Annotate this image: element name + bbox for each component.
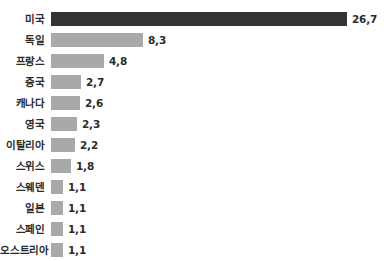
bar-row: 독일8,3 xyxy=(0,29,389,50)
bar xyxy=(51,117,77,131)
bar xyxy=(51,159,71,173)
bar-row: 프랑스4,8 xyxy=(0,50,389,71)
bar-value-label: 26,7 xyxy=(352,13,377,25)
bar-row: 오스트리아1,1 xyxy=(0,239,389,260)
bar xyxy=(51,138,75,152)
bar-row: 캐나다2,6 xyxy=(0,92,389,113)
bar xyxy=(51,201,63,215)
bar-track: 4,8 xyxy=(51,50,389,71)
bar-row: 스위스1,8 xyxy=(0,155,389,176)
bar xyxy=(51,180,63,194)
bar-track: 1,1 xyxy=(51,176,389,197)
bar xyxy=(51,33,143,47)
bar-row: 이탈리아2,2 xyxy=(0,134,389,155)
category-label: 독일 xyxy=(0,34,51,46)
plot-area: 미국26,7독일8,3프랑스4,8중국2,7캐나다2,6영국2,3이탈리아2,2… xyxy=(0,0,389,261)
category-label: 스페인 xyxy=(0,223,51,235)
bar-value-label: 2,7 xyxy=(86,76,104,88)
bar-value-label: 1,1 xyxy=(68,223,86,235)
bar-track: 1,1 xyxy=(51,218,389,239)
category-label: 이탈리아 xyxy=(0,139,51,151)
bar xyxy=(51,243,63,257)
category-label: 미국 xyxy=(0,13,51,25)
bar-value-label: 1,1 xyxy=(68,202,86,214)
bar-value-label: 4,8 xyxy=(109,55,127,67)
bar-chart: 미국26,7독일8,3프랑스4,8중국2,7캐나다2,6영국2,3이탈리아2,2… xyxy=(0,0,389,261)
category-label: 일본 xyxy=(0,202,51,214)
bar-value-label: 1,8 xyxy=(76,160,94,172)
bar-track: 2,3 xyxy=(51,113,389,134)
category-label: 스웨덴 xyxy=(0,181,51,193)
bar-row: 미국26,7 xyxy=(0,8,389,29)
bar-row: 중국2,7 xyxy=(0,71,389,92)
bar-value-label: 2,3 xyxy=(82,118,100,130)
bar-value-label: 2,6 xyxy=(85,97,103,109)
bar-value-label: 2,2 xyxy=(80,139,98,151)
bar-row: 스페인1,1 xyxy=(0,218,389,239)
bar xyxy=(51,96,80,110)
category-label: 중국 xyxy=(0,76,51,88)
bar-track: 8,3 xyxy=(51,29,389,50)
bar xyxy=(51,222,63,236)
bar-row: 스웨덴1,1 xyxy=(0,176,389,197)
bar-track: 26,7 xyxy=(51,8,389,29)
category-label: 캐나다 xyxy=(0,97,51,109)
bar-track: 2,6 xyxy=(51,92,389,113)
bar xyxy=(51,75,81,89)
bar-row: 영국2,3 xyxy=(0,113,389,134)
bar xyxy=(51,12,347,26)
category-label: 오스트리아 xyxy=(0,244,51,256)
category-label: 프랑스 xyxy=(0,55,51,67)
bar-track: 1,1 xyxy=(51,239,389,260)
category-label: 스위스 xyxy=(0,160,51,172)
bar xyxy=(51,54,104,68)
category-label: 영국 xyxy=(0,118,51,130)
bar-value-label: 8,3 xyxy=(148,34,166,46)
bar-track: 2,2 xyxy=(51,134,389,155)
bar-value-label: 1,1 xyxy=(68,181,86,193)
bar-track: 1,1 xyxy=(51,197,389,218)
bar-track: 2,7 xyxy=(51,71,389,92)
bar-row: 일본1,1 xyxy=(0,197,389,218)
bar-value-label: 1,1 xyxy=(68,244,86,256)
bar-track: 1,8 xyxy=(51,155,389,176)
